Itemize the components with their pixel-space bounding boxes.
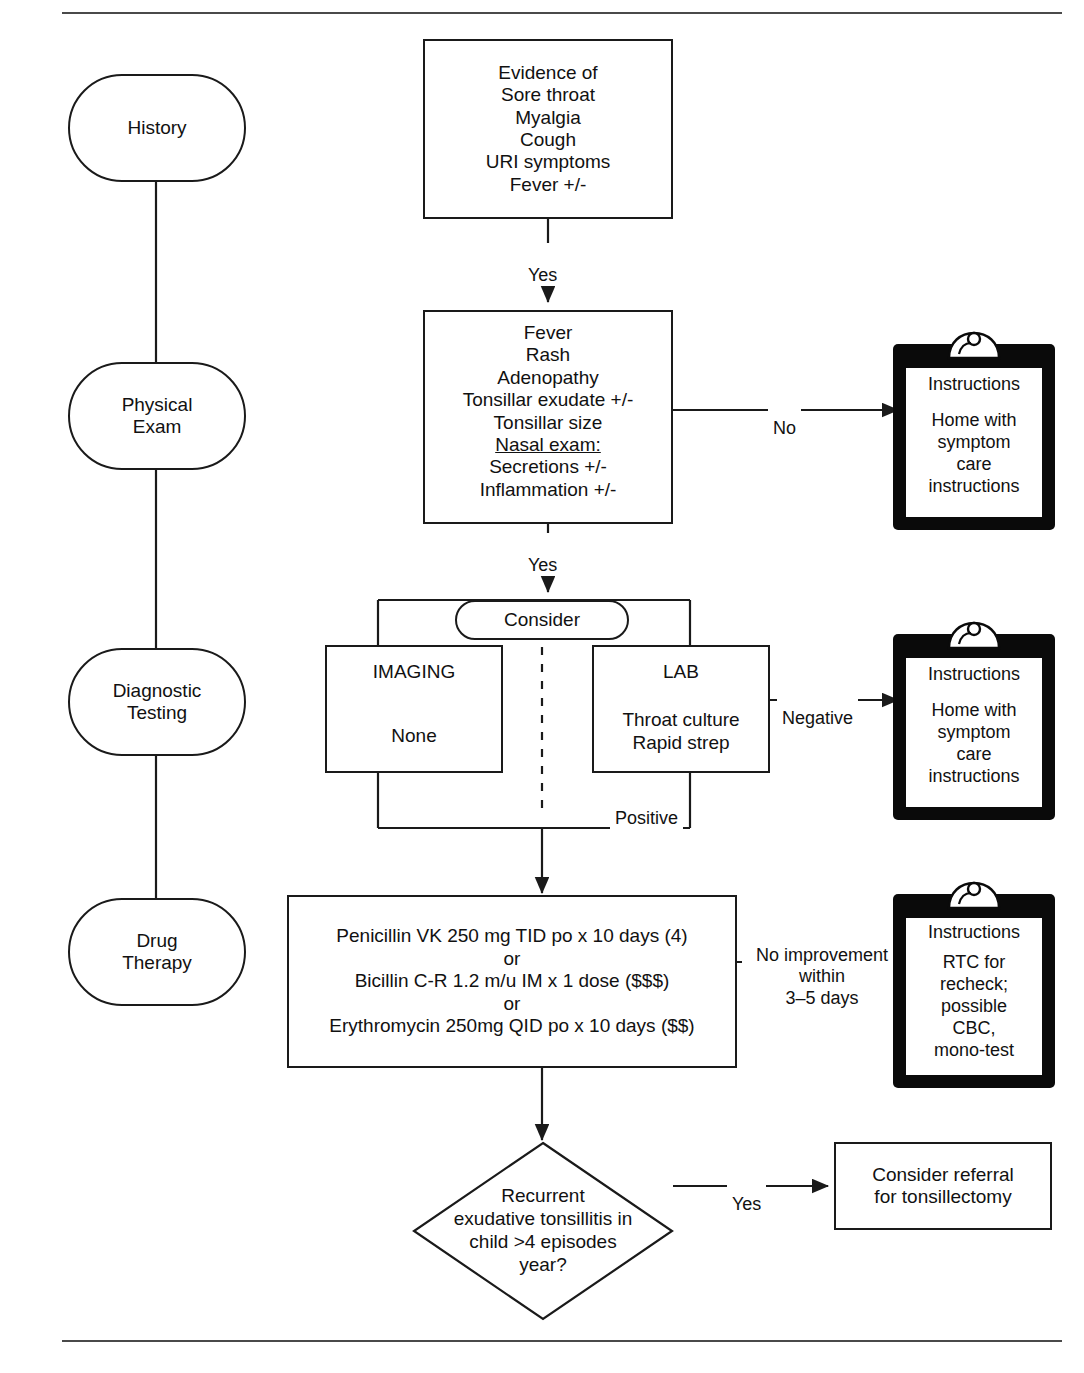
imaging-title: IMAGING [327,661,501,683]
consider-pill[interactable]: Consider [455,600,629,640]
physical-exam-findings-box[interactable]: Fever Rash Adenopathy Tonsillar exudate … [423,310,673,524]
edge-label-exam-yes: Yes [523,533,562,576]
decision-diamond-text-wrap: Recurrent exudative tonsillitis in child… [412,1141,674,1321]
history-findings-text: Evidence of Sore throat Myalgia Cough UR… [486,62,611,196]
edge-label-lab-negative: Negative [777,686,858,729]
consider-label: Consider [504,609,580,631]
clipboard-board: Instructions RTC for recheck; possible C… [893,894,1055,1088]
decision-diamond[interactable]: Recurrent exudative tonsillitis in child… [412,1141,674,1321]
imaging-box[interactable]: IMAGING None [325,645,503,773]
edge-label-no-improvement: No improvement within 3–5 days [742,923,902,1009]
flowchart-page: History Physical Exam Diagnostic Testing… [0,0,1084,1373]
exam-line-inflammation: Inflammation +/- [425,479,671,501]
lab-title: LAB [594,661,768,683]
decision-diamond-text: Recurrent exudative tonsillitis in child… [454,1185,632,1276]
exam-line-tonsillar-exudate: Tonsillar exudate +/- [425,389,671,411]
clipboard-no-improvement[interactable]: Instructions RTC for recheck; possible C… [893,880,1055,1088]
exam-line-adenopathy: Adenopathy [425,367,671,389]
clipboard-clip-icon [939,330,1009,360]
clipboard-body: Home with symptom care instructions [928,410,1019,498]
referral-text: Consider referral for tonsillectomy [872,1164,1014,1209]
clipboard-body: RTC for recheck; possible CBC, mono-test [934,952,1014,1062]
clipboard-clip-icon [939,880,1009,910]
lab-box[interactable]: LAB Throat culture Rapid strep [592,645,770,773]
drug-therapy-text: Penicillin VK 250 mg TID po x 10 days (4… [329,925,694,1037]
clipboard-title: Instructions [928,664,1020,686]
clipboard-board: Instructions Home with symptom care inst… [893,634,1055,820]
exam-line-tonsillar-size: Tonsillar size [425,412,671,434]
edge-label-decision-yes: Yes [727,1172,766,1215]
clipboard-paper: Instructions RTC for recheck; possible C… [906,918,1042,1075]
exam-line-fever: Fever [425,322,671,344]
clipboard-board: Instructions Home with symptom care inst… [893,344,1055,530]
clipboard-lab-negative[interactable]: Instructions Home with symptom care inst… [893,620,1055,820]
exam-line-nasal-exam-heading: Nasal exam: [425,434,671,456]
referral-box[interactable]: Consider referral for tonsillectomy [834,1142,1052,1230]
clipboard-paper: Instructions Home with symptom care inst… [906,368,1042,517]
clipboard-clip-icon [939,620,1009,650]
stage-pill-drug-therapy[interactable]: Drug Therapy [68,898,246,1006]
exam-line-secretions: Secretions +/- [425,456,671,478]
history-findings-box[interactable]: Evidence of Sore throat Myalgia Cough UR… [423,39,673,219]
stage-label: Diagnostic Testing [113,680,202,725]
drug-therapy-box[interactable]: Penicillin VK 250 mg TID po x 10 days (4… [287,895,737,1068]
clipboard-exam-no[interactable]: Instructions Home with symptom care inst… [893,330,1055,530]
stage-label: Physical Exam [122,394,193,439]
edge-label-exam-no: No [768,396,801,439]
clipboard-title: Instructions [928,374,1020,396]
edge-label-lab-positive: Positive [610,786,683,829]
stage-pill-diagnostic-testing[interactable]: Diagnostic Testing [68,648,246,756]
clipboard-title: Instructions [928,922,1020,944]
edge-label-history-yes: Yes [523,243,562,286]
clipboard-body: Home with symptom care instructions [928,700,1019,788]
clipboard-paper: Instructions Home with symptom care inst… [906,658,1042,807]
stage-pill-history[interactable]: History [68,74,246,182]
imaging-body: None [327,725,501,747]
stage-pill-physical-exam[interactable]: Physical Exam [68,362,246,470]
exam-line-rash: Rash [425,344,671,366]
stage-label: Drug Therapy [122,930,192,975]
stage-label: History [127,117,186,139]
lab-body: Throat culture Rapid strep [594,709,768,755]
